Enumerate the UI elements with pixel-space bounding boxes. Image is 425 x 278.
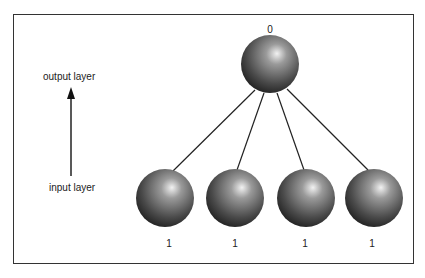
output-node xyxy=(241,35,299,93)
arrow-up-icon xyxy=(67,87,75,176)
network-graphic xyxy=(0,0,425,278)
input-node-value: 1 xyxy=(232,238,238,249)
input-node-1 xyxy=(136,169,194,227)
output-node-value: 0 xyxy=(267,24,273,35)
connection-line xyxy=(173,90,255,171)
input-node-value: 1 xyxy=(166,238,172,249)
output-layer-label: output layer xyxy=(43,71,95,82)
connections xyxy=(173,89,368,171)
input-node-3 xyxy=(277,169,335,227)
input-layer-label: input layer xyxy=(49,182,95,193)
input-node-value: 1 xyxy=(369,238,375,249)
connection-line xyxy=(277,93,304,170)
input-node-2 xyxy=(206,169,264,227)
input-node-4 xyxy=(345,169,403,227)
input-node-value: 1 xyxy=(302,238,308,249)
